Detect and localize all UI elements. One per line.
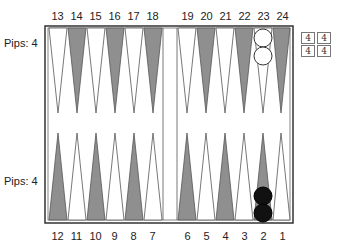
die-3[interactable]: 4 — [301, 45, 315, 57]
black-checker[interactable] — [254, 187, 272, 205]
backgammon-board — [0, 0, 339, 249]
die-1[interactable]: 4 — [301, 32, 315, 44]
black-checker[interactable] — [254, 204, 272, 222]
white-checker[interactable] — [254, 29, 272, 47]
white-checker[interactable] — [254, 47, 272, 65]
die-2[interactable]: 4 — [317, 32, 331, 44]
die-4[interactable]: 4 — [317, 45, 331, 57]
